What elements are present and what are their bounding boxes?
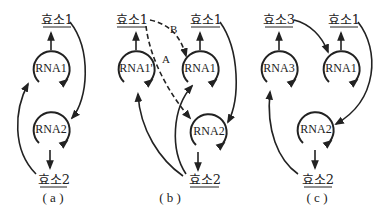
rna2-cycle-arrowhead — [326, 141, 331, 145]
enzyme3-label: 효소3 — [263, 12, 295, 27]
panel-c-caption: ( c ) — [307, 190, 328, 205]
rna1-cycle-arrowhead — [62, 80, 67, 84]
enzyme2-to-rna3-arrow — [269, 92, 298, 174]
rna1prime-label: RNA1' — [119, 61, 153, 75]
rna1prime-cycle-arrowhead — [147, 80, 152, 84]
rna2-label: RNA2 — [35, 122, 66, 136]
enzyme3-to-rna1-arrow — [294, 20, 328, 52]
rna2-cycle-arrowhead — [62, 141, 67, 145]
panel-c: 효소3 RNA3 효소1 RNA1 RNA2 효소2 ( c ) — [262, 12, 372, 205]
pathway-b-label: B — [170, 23, 177, 35]
enzyme1-to-rna2-arrow — [220, 22, 236, 122]
rna1-cycle-arrowhead — [352, 80, 357, 84]
panel-b-caption: ( b ) — [159, 190, 181, 205]
enzyme2-label: 효소2 — [302, 172, 334, 187]
rna3-label: RNA3 — [263, 61, 294, 75]
panel-b: 효소1 RNA1' 효소1 RNA1 RNA2 효소2 ( b ) B A — [116, 12, 236, 205]
enzyme1-left-label: 효소1 — [116, 12, 148, 27]
rna1-cycle-arrowhead — [211, 80, 216, 84]
panel-a: 효소1 RNA1 RNA2 효소2 ( a ) — [18, 12, 86, 205]
enzyme2-to-rna1prime-arrow — [138, 94, 183, 176]
enzyme2-label: 효소2 — [38, 172, 70, 187]
enzyme1-right-label: 효소1 — [190, 12, 222, 27]
rna1-label: RNA1 — [325, 61, 356, 75]
enzyme1-label: 효소1 — [328, 12, 360, 27]
enzyme1-label: 효소1 — [41, 12, 73, 27]
enzyme1-to-rna2-arrow — [70, 22, 85, 118]
rna2-label: RNA2 — [193, 124, 224, 138]
rna1-label: RNA1 — [184, 61, 215, 75]
pathway-b-dashed-arrow — [150, 20, 186, 56]
rna-enzyme-diagram: 효소1 RNA1 RNA2 효소2 ( a ) 효소1 RNA1' 효소1 RN… — [0, 0, 388, 217]
rna2-cycle-arrowhead — [219, 143, 224, 147]
pathway-a-label: A — [162, 53, 170, 65]
enzyme2-label: 효소2 — [189, 172, 221, 187]
panel-a-caption: ( a ) — [43, 190, 64, 205]
rna1-label: RNA1 — [35, 61, 66, 75]
rna3-cycle-arrowhead — [290, 80, 295, 84]
rna2-label: RNA2 — [300, 122, 331, 136]
enzyme2-to-rna1-arrow — [175, 86, 192, 174]
